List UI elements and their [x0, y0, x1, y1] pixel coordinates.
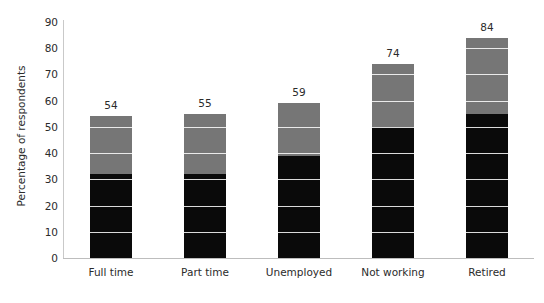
plot-area: [64, 22, 534, 258]
chart-title-cropped: [0, 0, 544, 7]
bar-value-label: 55: [198, 97, 211, 109]
bar-unemployed[interactable]: [278, 103, 320, 258]
y-axis-tick-labels: 0102030405060708090: [28, 0, 58, 303]
y-tick-label: 70: [32, 68, 58, 80]
y-tick-label: 90: [32, 16, 58, 28]
bar-retired[interactable]: [466, 38, 508, 258]
y-tick-label: 50: [32, 121, 58, 133]
bar-segment-upper: [466, 38, 508, 114]
bar-segment-upper: [372, 64, 414, 127]
x-tick-label: Not working: [361, 266, 424, 278]
bar-part-time[interactable]: [184, 114, 226, 258]
bar-segment-upper: [90, 116, 132, 174]
bar-value-label: 74: [386, 47, 399, 59]
bar-value-label: 54: [104, 99, 117, 111]
bar-segment-lower: [372, 127, 414, 258]
x-tick-label: Unemployed: [266, 266, 332, 278]
bar-full-time[interactable]: [90, 116, 132, 258]
y-tick-label: 20: [32, 200, 58, 212]
y-tick-label: 40: [32, 147, 58, 159]
bar-value-label: 59: [292, 86, 305, 98]
y-tick-label: 10: [32, 226, 58, 238]
y-tick-label: 60: [32, 95, 58, 107]
y-tick-label: 0: [32, 252, 58, 264]
y-tick-label: 80: [32, 42, 58, 54]
bar-segment-upper: [184, 114, 226, 174]
y-tick-label: 30: [32, 173, 58, 185]
x-axis-line: [63, 258, 534, 259]
x-tick-label: Part time: [181, 266, 229, 278]
x-tick-label: Retired: [468, 266, 506, 278]
y-axis-title: Percentage of respondents: [15, 21, 27, 251]
bar-not-working[interactable]: [372, 64, 414, 258]
bar-segment-lower: [466, 114, 508, 258]
x-tick-label: Full time: [88, 266, 133, 278]
bar-segment-lower: [184, 174, 226, 258]
stacked-bar-chart: Percentage of respondents 01020304050607…: [0, 0, 544, 303]
bar-value-label: 84: [480, 21, 493, 33]
bar-segment-lower: [90, 174, 132, 258]
bar-segment-lower: [278, 156, 320, 258]
bar-segment-upper: [278, 103, 320, 155]
